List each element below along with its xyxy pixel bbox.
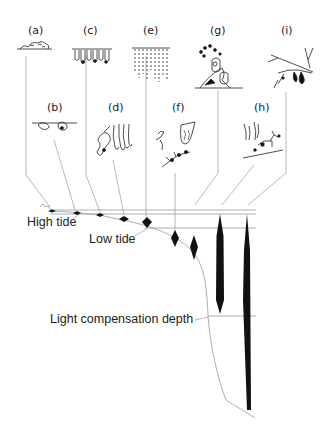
light-compensation-depth-label: Light compensation depth bbox=[50, 312, 193, 326]
panel-label-e: (e) bbox=[143, 24, 158, 37]
high-tide-label: High tide bbox=[27, 215, 76, 229]
marker-i bbox=[243, 214, 251, 410]
illustration-g bbox=[195, 45, 243, 88]
panel-label-i: (i) bbox=[281, 24, 293, 37]
panel-label-b: (b) bbox=[47, 101, 63, 114]
leader-h bbox=[222, 165, 254, 205]
marker-f bbox=[171, 230, 179, 247]
panel-label-g: (g) bbox=[210, 24, 226, 37]
illustration-a bbox=[17, 42, 52, 49]
leader-low-tide bbox=[135, 228, 148, 236]
illustration-c bbox=[72, 49, 112, 64]
illustration-f bbox=[156, 122, 195, 167]
leader-light-compensation bbox=[195, 317, 208, 320]
illustration-d bbox=[97, 124, 132, 155]
marker-g bbox=[190, 235, 198, 260]
panel-label-d: (d) bbox=[108, 101, 124, 114]
illustration-b bbox=[32, 122, 77, 130]
marker-e bbox=[142, 217, 152, 228]
illustration-e bbox=[132, 48, 170, 82]
leader-c bbox=[86, 56, 100, 212]
low-tide-label: Low tide bbox=[89, 232, 136, 246]
leader-b bbox=[54, 140, 75, 210]
reference-lines bbox=[50, 210, 256, 316]
panel-label-c: (c) bbox=[83, 24, 98, 37]
panel-label-h: (h) bbox=[254, 101, 270, 114]
leader-d bbox=[113, 160, 124, 215]
leader-a bbox=[26, 56, 50, 207]
zone-markers bbox=[48, 210, 251, 411]
leader-g bbox=[195, 90, 218, 205]
panel-label-a: (a) bbox=[28, 24, 43, 37]
illustration-i bbox=[268, 48, 313, 88]
illustration-h bbox=[243, 122, 283, 158]
marker-h bbox=[216, 214, 224, 314]
panel-label-f: (f) bbox=[172, 101, 184, 114]
